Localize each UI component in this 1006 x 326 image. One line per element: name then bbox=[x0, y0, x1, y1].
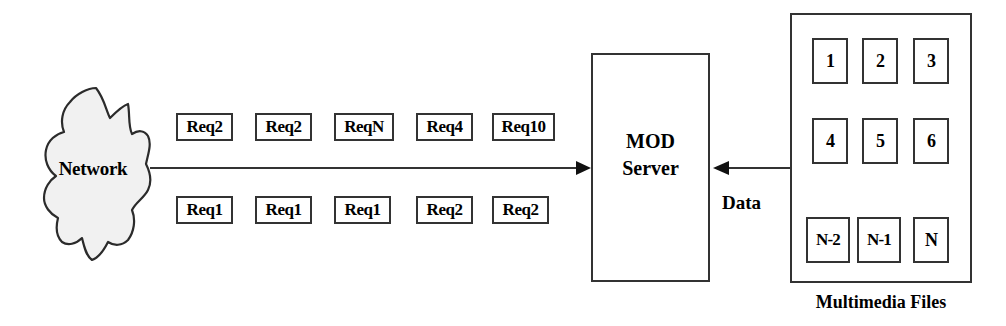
request-box-bottom-2[interactable]: Req1 bbox=[255, 196, 312, 224]
request-box-top-5[interactable]: Req10 bbox=[492, 113, 555, 141]
file-box-n-minus-1[interactable]: N-1 bbox=[857, 217, 901, 263]
diagram-canvas: Network Req2 Req2 ReqN Req4 Req10 Req1 R… bbox=[0, 0, 1006, 326]
request-box-top-1[interactable]: Req2 bbox=[176, 113, 233, 141]
request-box-bottom-3[interactable]: Req1 bbox=[334, 196, 391, 224]
file-box-5[interactable]: 5 bbox=[862, 118, 898, 164]
file-box-n[interactable]: N bbox=[913, 217, 949, 263]
request-box-bottom-4[interactable]: Req2 bbox=[416, 196, 473, 224]
file-box-2[interactable]: 2 bbox=[862, 38, 898, 84]
file-box-n-minus-2[interactable]: N-2 bbox=[806, 217, 850, 263]
mod-server-label: MOD Server bbox=[591, 128, 710, 182]
mod-server-label-line1: MOD bbox=[591, 128, 710, 155]
file-box-3[interactable]: 3 bbox=[913, 38, 949, 84]
request-box-top-4[interactable]: Req4 bbox=[416, 113, 473, 141]
request-box-top-3[interactable]: ReqN bbox=[334, 113, 394, 141]
multimedia-files-caption: Multimedia Files bbox=[770, 292, 992, 313]
request-flow-arrowhead bbox=[576, 161, 591, 175]
request-box-top-2[interactable]: Req2 bbox=[255, 113, 312, 141]
network-label: Network bbox=[28, 158, 158, 180]
file-box-6[interactable]: 6 bbox=[913, 118, 949, 164]
data-flow-arrowhead bbox=[713, 161, 729, 175]
file-box-4[interactable]: 4 bbox=[812, 118, 848, 164]
data-flow-label: Data bbox=[722, 192, 761, 214]
request-box-bottom-1[interactable]: Req1 bbox=[176, 196, 233, 224]
request-box-bottom-5[interactable]: Req2 bbox=[492, 196, 549, 224]
mod-server-label-line2: Server bbox=[591, 155, 710, 182]
file-box-1[interactable]: 1 bbox=[812, 38, 848, 84]
